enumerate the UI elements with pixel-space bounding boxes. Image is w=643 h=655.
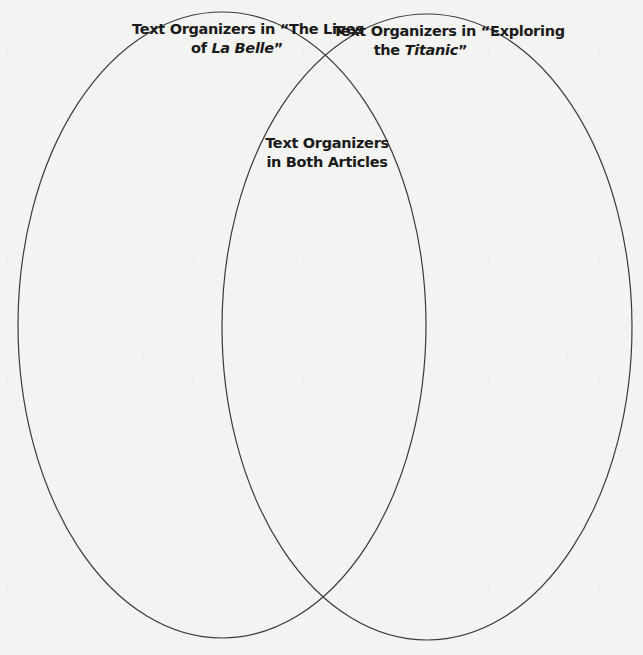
- left-label-line2: of La Belle”: [132, 39, 342, 58]
- right-label-prefix: the: [374, 42, 405, 58]
- right-circle-label: Text Organizers in “Exploring the Titani…: [333, 22, 508, 60]
- right-circle: [222, 14, 632, 640]
- right-label-suffix: ”: [458, 42, 467, 58]
- right-label-italic-title: Titanic: [405, 42, 458, 58]
- venn-diagram: [0, 0, 643, 655]
- overlap-label: Text Organizers in Both Articles: [262, 134, 392, 172]
- right-label-line1: Text Organizers in “Exploring: [333, 22, 508, 41]
- overlap-label-line1: Text Organizers: [262, 134, 392, 153]
- right-label-line2: the Titanic”: [333, 41, 508, 60]
- left-label-suffix: ”: [274, 40, 283, 56]
- left-circle-label: Text Organizers in “The Lives of La Bell…: [132, 20, 342, 58]
- left-label-italic-title: La Belle: [211, 40, 273, 56]
- overlap-label-line2: in Both Articles: [262, 153, 392, 172]
- left-label-line1: Text Organizers in “The Lives: [132, 20, 342, 39]
- left-label-prefix: of: [191, 40, 211, 56]
